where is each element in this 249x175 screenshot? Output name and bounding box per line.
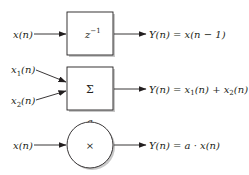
multiplier-output-label: Y(n) = a · x(n) bbox=[149, 140, 220, 151]
adder-input-1-label: x1(n) bbox=[11, 64, 35, 78]
multiplier-block-group: a x(n) × Y(n) = a · x(n) bbox=[13, 116, 220, 170]
multiply-icon: × bbox=[86, 140, 94, 151]
adder-output-label: Y(n) = x1(n) + x2(n) bbox=[149, 84, 248, 98]
adder-input-2-arrow bbox=[36, 91, 66, 100]
multiplier-input-label: x(n) bbox=[13, 140, 33, 151]
adder-input-1-arrow bbox=[36, 70, 66, 82]
adder-block-group: x1(n) x2(n) Σ Y(n) = x1(n) + x2(n) bbox=[11, 64, 248, 112]
delay-block-group: x(n) z−1 Y(n) = x(n − 1) bbox=[13, 12, 226, 57]
sigma-icon: Σ bbox=[86, 83, 94, 96]
delay-output-label: Y(n) = x(n − 1) bbox=[149, 29, 226, 40]
delay-input-label: x(n) bbox=[13, 29, 33, 40]
adder-input-2-label: x2(n) bbox=[11, 95, 35, 109]
diagram-canvas: x(n) z−1 Y(n) = x(n − 1) x1(n) x2(n) Σ Y… bbox=[0, 0, 249, 175]
